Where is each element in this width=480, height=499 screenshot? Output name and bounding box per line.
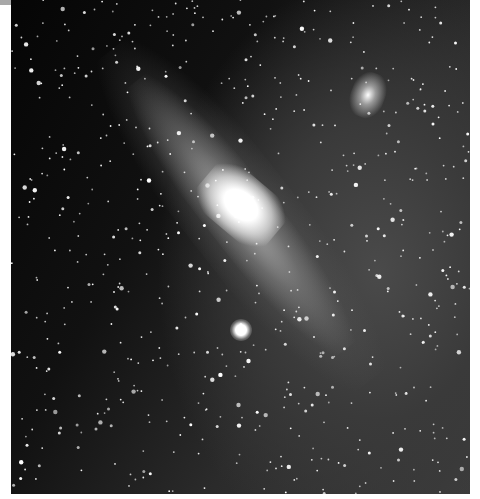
star-field	[11, 0, 470, 494]
galaxy-photo	[11, 0, 470, 494]
